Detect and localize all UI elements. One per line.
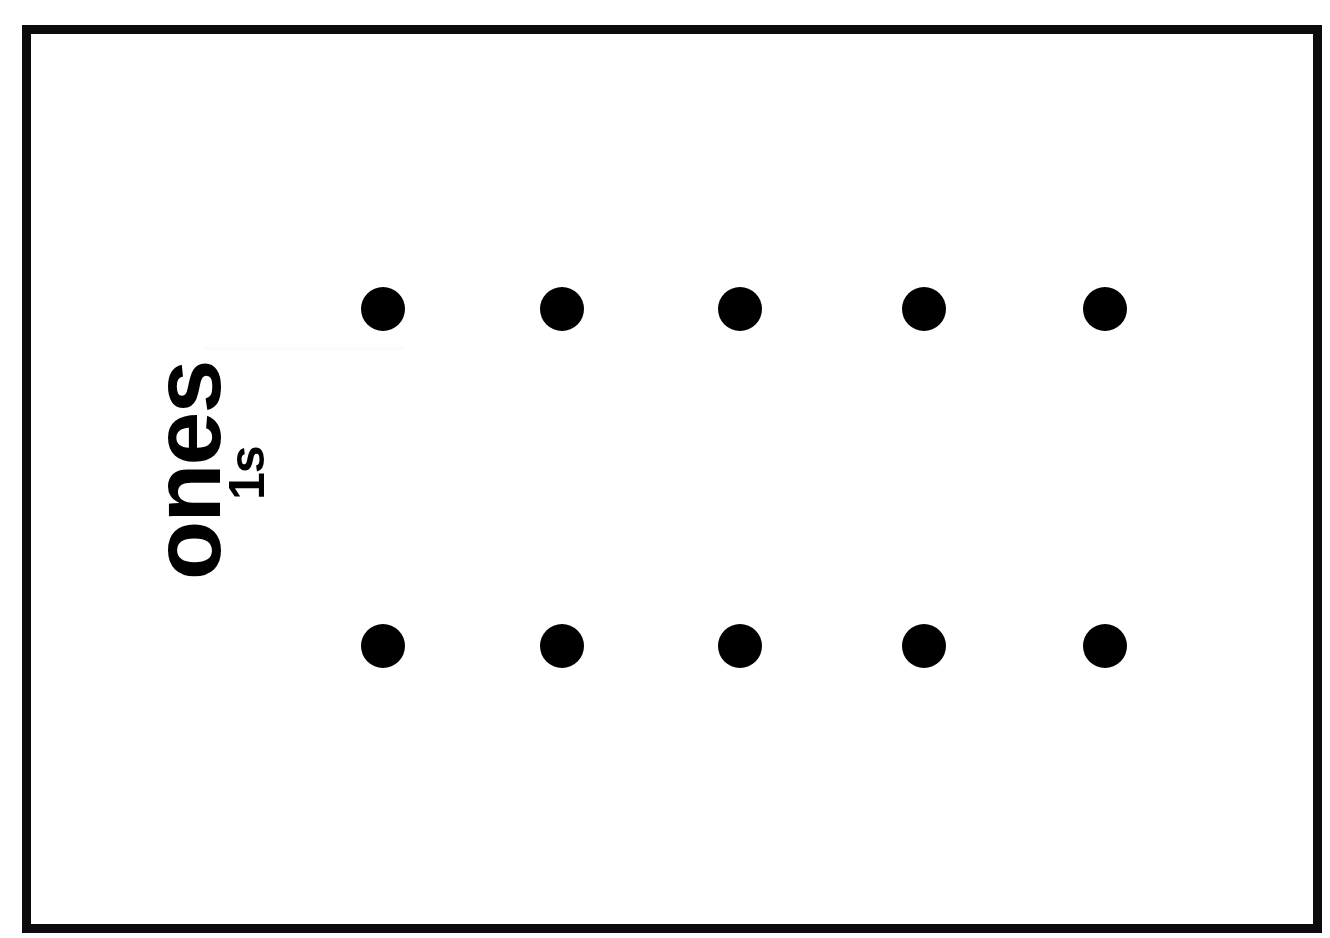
counter-dot[interactable] — [1083, 287, 1127, 331]
counter-dot[interactable] — [361, 624, 405, 668]
dot-row — [0, 287, 1330, 331]
counter-dot[interactable] — [718, 287, 762, 331]
dot-row — [0, 624, 1330, 668]
counter-dot[interactable] — [718, 624, 762, 668]
counter-dot[interactable] — [1083, 624, 1127, 668]
counter-dot[interactable] — [361, 287, 405, 331]
counter-dot[interactable] — [540, 287, 584, 331]
counter-dot-grid — [0, 0, 1330, 938]
counter-dot[interactable] — [902, 287, 946, 331]
counter-dot[interactable] — [902, 624, 946, 668]
counter-dot[interactable] — [540, 624, 584, 668]
dot-card-canvas: ones 1s — [0, 0, 1330, 938]
